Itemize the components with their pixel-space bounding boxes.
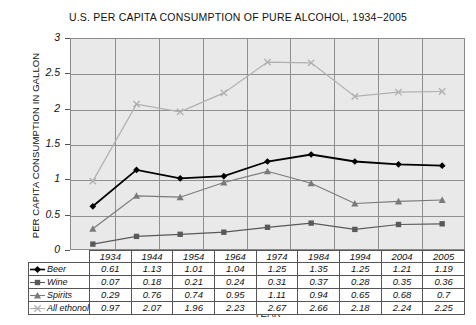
table-cell: 1.25 bbox=[256, 263, 298, 276]
table-cell: 2.18 bbox=[339, 301, 381, 314]
table-header-year: 2005 bbox=[423, 251, 465, 263]
table-header-year: 1954 bbox=[173, 251, 215, 263]
series-layer bbox=[71, 39, 464, 249]
data-point bbox=[264, 158, 271, 165]
legend-label: All ethonol bbox=[47, 303, 89, 314]
table-cell: 2.67 bbox=[256, 301, 298, 314]
table-body: Beer0.611.131.011.041.251.351.251.211.19… bbox=[29, 263, 465, 315]
data-point bbox=[221, 90, 227, 96]
table-header-year: 1964 bbox=[215, 251, 257, 263]
legend-label: Wine bbox=[47, 277, 67, 288]
table-cell: 0.94 bbox=[298, 288, 340, 301]
table-cell: 1.96 bbox=[173, 301, 215, 314]
table-cell: 2.66 bbox=[298, 301, 340, 314]
y-axis-label: PER CAPITA CONSUMPTION IN GALLON bbox=[30, 41, 41, 251]
table-cell: 1.35 bbox=[298, 263, 340, 276]
data-point bbox=[396, 222, 401, 227]
data-point bbox=[90, 178, 96, 184]
table-cell: 0.24 bbox=[215, 275, 257, 288]
legend-label: Beer bbox=[47, 264, 66, 275]
table-cell: 0.18 bbox=[131, 275, 173, 288]
table-cell: 2.24 bbox=[381, 301, 423, 314]
table-cell: 2.23 bbox=[215, 301, 257, 314]
table-header-year: 1984 bbox=[298, 251, 340, 263]
table-cell: 2.25 bbox=[423, 301, 465, 314]
table-cell: 0.07 bbox=[90, 275, 132, 288]
table-cell: 0.37 bbox=[298, 275, 340, 288]
legend-marker-icon bbox=[30, 278, 45, 287]
table-cell: 1.13 bbox=[131, 263, 173, 276]
data-point bbox=[395, 161, 402, 168]
table-cell: 0.65 bbox=[339, 288, 381, 301]
table-cell: 0.95 bbox=[215, 288, 257, 301]
data-table: 193419441954196419741984199420042005 Bee… bbox=[28, 250, 465, 315]
table-row: All ethonol0.972.071.962.232.672.662.182… bbox=[29, 301, 465, 314]
legend-entry-beer: Beer bbox=[29, 263, 90, 276]
series-spirits bbox=[89, 168, 445, 232]
table-cell: 0.31 bbox=[256, 275, 298, 288]
table-cell: 1.11 bbox=[256, 288, 298, 301]
data-point bbox=[265, 225, 270, 230]
table-header-row: 193419441954196419741984199420042005 bbox=[29, 251, 465, 263]
table-row: Wine0.070.180.210.240.310.370.280.350.36 bbox=[29, 275, 465, 288]
table-cell: 0.36 bbox=[423, 275, 465, 288]
data-point bbox=[177, 232, 182, 237]
data-point bbox=[264, 168, 271, 175]
table-corner-cell bbox=[29, 251, 90, 263]
table-header-year: 1994 bbox=[339, 251, 381, 263]
table-cell: 0.21 bbox=[173, 275, 215, 288]
table-header-year: 1934 bbox=[90, 251, 132, 263]
series-line bbox=[93, 171, 442, 228]
legend-entry-wine: Wine bbox=[29, 275, 90, 288]
data-point bbox=[439, 221, 444, 226]
table-cell: 0.74 bbox=[173, 288, 215, 301]
table-row: Spirits0.290.760.740.951.110.940.650.680… bbox=[29, 288, 465, 301]
data-point bbox=[90, 241, 95, 246]
table-cell: 0.35 bbox=[381, 275, 423, 288]
plot-area bbox=[70, 38, 465, 250]
table-cell: 2.07 bbox=[131, 301, 173, 314]
table-cell: 1.19 bbox=[423, 263, 465, 276]
table-cell: 0.68 bbox=[381, 288, 423, 301]
data-point bbox=[308, 220, 313, 225]
legend-marker-icon bbox=[30, 304, 45, 313]
series-all-ethonol bbox=[90, 59, 446, 184]
table-row: Beer0.611.131.011.041.251.351.251.211.19 bbox=[29, 263, 465, 276]
table-cell: 0.97 bbox=[90, 301, 132, 314]
data-point bbox=[308, 151, 315, 158]
legend-marker-icon bbox=[30, 265, 45, 274]
series-beer bbox=[89, 151, 445, 210]
series-wine bbox=[90, 220, 445, 246]
table-header-year: 1944 bbox=[131, 251, 173, 263]
data-point bbox=[352, 227, 357, 232]
table-cell: 0.7 bbox=[423, 288, 465, 301]
table-cell: 0.76 bbox=[131, 288, 173, 301]
table-header-year: 1974 bbox=[256, 251, 298, 263]
table-cell: 0.61 bbox=[90, 263, 132, 276]
legend-marker-icon bbox=[30, 291, 45, 300]
chart-title: U.S. PER CAPITA CONSUMPTION OF PURE ALCO… bbox=[0, 11, 476, 23]
table-cell: 0.29 bbox=[90, 288, 132, 301]
data-point bbox=[351, 158, 358, 165]
table-cell: 0.28 bbox=[339, 275, 381, 288]
table-cell: 1.04 bbox=[215, 263, 257, 276]
data-point bbox=[221, 230, 226, 235]
legend-entry-all-ethonol: All ethonol bbox=[29, 301, 90, 314]
table-cell: 1.01 bbox=[173, 263, 215, 276]
chart-container: U.S. PER CAPITA CONSUMPTION OF PURE ALCO… bbox=[0, 0, 476, 325]
table-cell: 1.21 bbox=[381, 263, 423, 276]
table-cell: 1.25 bbox=[339, 263, 381, 276]
legend-label: Spirits bbox=[47, 290, 72, 301]
table-header-year: 2004 bbox=[381, 251, 423, 263]
data-point bbox=[220, 173, 227, 180]
legend-entry-spirits: Spirits bbox=[29, 288, 90, 301]
data-point bbox=[439, 162, 446, 169]
data-point bbox=[134, 234, 139, 239]
data-point bbox=[177, 175, 184, 182]
